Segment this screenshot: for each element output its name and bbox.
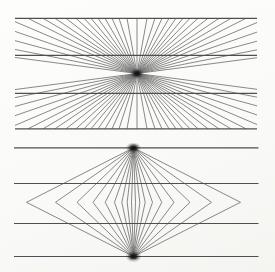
scanned-illusion-page — [0, 0, 275, 272]
illusion-figure-canvas — [0, 0, 275, 272]
fan-ray-line — [84, 74, 137, 129]
hering-center-ink-blob — [135, 72, 139, 75]
lens-chevron-line — [134, 148, 241, 257]
wundt-top-vertex-ink-blob — [131, 146, 136, 149]
lens-chevron-line — [27, 148, 134, 257]
wundt-bottom-vertex-ink-blob — [131, 255, 136, 258]
lens-chevron-line — [115, 148, 134, 257]
hering-illusion-figure — [15, 18, 257, 129]
wundt-illusion-figure — [14, 143, 259, 262]
fan-ray-line — [137, 74, 190, 129]
fan-ray-line — [137, 18, 190, 73]
lens-chevron-line — [134, 148, 153, 257]
fan-ray-line — [84, 18, 137, 73]
